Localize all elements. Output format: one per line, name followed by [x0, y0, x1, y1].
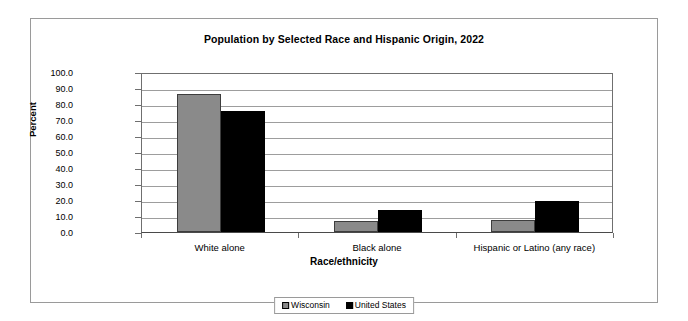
y-axis-tick-label: 20.0 [13, 197, 73, 206]
x-axis-tick-label: Black alone [352, 242, 401, 253]
y-axis-tick-label: 90.0 [13, 85, 73, 94]
bar-wisconsin-0 [177, 94, 221, 232]
y-axis-tick-mark [135, 201, 141, 202]
bar-wisconsin-2 [491, 220, 535, 232]
y-axis-tick-label: 80.0 [13, 101, 73, 110]
y-axis-tick-label: 50.0 [13, 149, 73, 158]
x-axis-tick-mark [298, 233, 299, 238]
y-axis-tick-mark [135, 185, 141, 186]
legend-swatch-wisconsin [282, 302, 289, 309]
y-axis-tick-mark [135, 73, 141, 74]
y-axis-tick-mark [135, 137, 141, 138]
y-axis-tick-label: 30.0 [13, 181, 73, 190]
y-axis-tick-label: 0.0 [13, 229, 73, 238]
x-axis-tick-mark [613, 233, 614, 238]
chart-legend: Wisconsin United States [274, 297, 414, 314]
y-axis-tick-mark [135, 153, 141, 154]
x-axis-tick-label: White alone [195, 242, 245, 253]
chart-frame: Population by Selected Race and Hispanic… [30, 18, 658, 303]
x-axis-tick-mark [456, 233, 457, 238]
bar-united-states-2 [535, 201, 579, 232]
y-axis-tick-mark [135, 217, 141, 218]
chart-title: Population by Selected Race and Hispanic… [31, 33, 657, 45]
x-axis-tick-mark [141, 233, 142, 238]
y-axis-tick-label: 70.0 [13, 117, 73, 126]
bar-wisconsin-1 [334, 221, 378, 232]
gridline [142, 90, 612, 91]
y-axis-tick-label: 60.0 [13, 133, 73, 142]
legend-swatch-united-states [346, 302, 353, 309]
bar-united-states-1 [378, 210, 422, 232]
legend-item-united-states: United States [346, 300, 406, 310]
x-axis-tick-label: Hispanic or Latino (any race) [474, 242, 595, 253]
plot-area [141, 73, 613, 233]
y-axis-tick-mark [135, 121, 141, 122]
y-axis-tick-mark [135, 89, 141, 90]
y-axis-tick-label: 100.0 [13, 69, 73, 78]
bar-united-states-0 [221, 111, 265, 232]
legend-item-wisconsin: Wisconsin [282, 300, 330, 310]
y-axis-tick-mark [135, 105, 141, 106]
legend-label-united-states: United States [355, 300, 406, 310]
y-axis-tick-label: 10.0 [13, 213, 73, 222]
y-axis-tick-label: 40.0 [13, 165, 73, 174]
legend-label-wisconsin: Wisconsin [291, 300, 330, 310]
x-axis-title: Race/ethnicity [31, 256, 657, 267]
y-axis-tick-mark [135, 169, 141, 170]
